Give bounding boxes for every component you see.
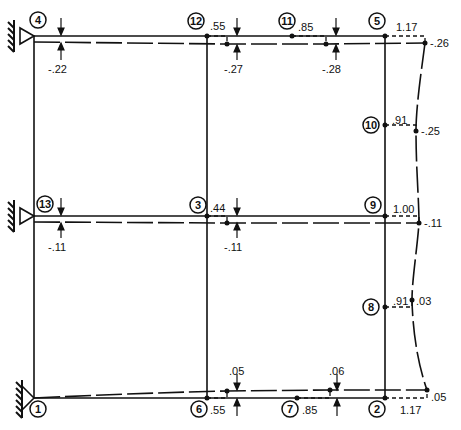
node-3: 3 xyxy=(190,197,206,213)
displacement-connectors xyxy=(207,36,427,398)
node-10: 10 xyxy=(363,117,379,133)
node-9: 9 xyxy=(365,197,381,213)
svg-text:7: 7 xyxy=(287,403,293,415)
support-mid-left xyxy=(8,200,34,232)
label-mid-vertical: -.11 xyxy=(224,241,242,253)
label-node10-horizontal: .91 xyxy=(392,114,407,126)
node-6: 6 xyxy=(191,401,207,417)
svg-text:13: 13 xyxy=(39,198,51,210)
svg-text:9: 9 xyxy=(370,199,376,211)
svg-text:6: 6 xyxy=(196,403,202,415)
node-12: 12 xyxy=(188,13,204,29)
svg-text:11: 11 xyxy=(281,15,293,27)
node-7: 7 xyxy=(282,401,298,417)
label-right-lower-mid: .03 xyxy=(416,295,431,307)
support-top-left xyxy=(8,20,34,52)
label-top-left-vertical: -.22 xyxy=(48,63,67,75)
node-11: 11 xyxy=(279,13,295,29)
svg-text:3: 3 xyxy=(195,199,201,211)
deflected-shape xyxy=(34,42,427,398)
label-node2-horizontal: 1.17 xyxy=(400,404,421,416)
dimension-arrows xyxy=(58,18,340,416)
label-top-mid-vertical: -.27 xyxy=(224,63,243,75)
label-node9-horizontal: 1.00 xyxy=(393,203,414,215)
label-node5-horizontal: 1.17 xyxy=(396,21,417,33)
label-node8-horizontal: .91 xyxy=(393,295,408,307)
label-node13-vertical: -.11 xyxy=(48,241,66,253)
node-4: 4 xyxy=(30,12,46,28)
label-mid-right-corner: -.11 xyxy=(424,217,442,229)
label-right-upper-mid: -.25 xyxy=(421,125,440,137)
label-bottom-mid-vertical: .05 xyxy=(229,365,244,377)
node-5: 5 xyxy=(369,13,385,29)
label-node6-horizontal: .55 xyxy=(210,404,225,416)
node-dots xyxy=(205,34,430,401)
node-13: 13 xyxy=(37,196,53,212)
svg-text:8: 8 xyxy=(368,301,374,313)
node-2: 2 xyxy=(369,401,385,417)
node-1: 1 xyxy=(30,401,46,417)
svg-text:10: 10 xyxy=(365,119,377,131)
label-node12-horizontal: .55 xyxy=(210,20,225,32)
label-node3-horizontal: .44 xyxy=(210,202,225,214)
svg-text:4: 4 xyxy=(35,14,42,26)
node-8: 8 xyxy=(363,299,379,315)
frame-deflection-diagram: 4 12 11 5 10 13 3 9 8 1 6 7 xyxy=(0,0,461,430)
label-bottom-right-mid-vertical: .06 xyxy=(329,365,344,377)
label-top-right-mid-vertical: -.28 xyxy=(322,63,341,75)
label-bottom-right-corner: .05 xyxy=(431,391,446,403)
svg-text:12: 12 xyxy=(190,15,202,27)
original-frame xyxy=(34,36,385,398)
svg-text:2: 2 xyxy=(374,403,380,415)
svg-text:5: 5 xyxy=(374,15,380,27)
value-labels: -.22 .55 -.27 .85 -.28 1.17 -.26 .91 -.2… xyxy=(48,20,449,416)
svg-text:1: 1 xyxy=(35,403,41,415)
label-node11-horizontal: .85 xyxy=(298,21,313,33)
label-node7-horizontal: .85 xyxy=(302,404,317,416)
label-top-right-corner: -.26 xyxy=(430,37,449,49)
